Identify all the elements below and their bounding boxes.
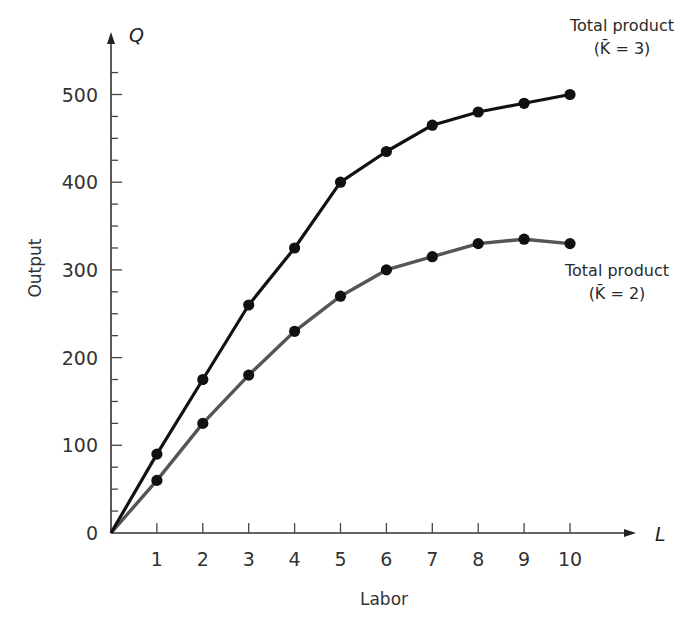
- series-k3: [111, 89, 576, 533]
- curve-label-k2-line2: (K̄ = 2): [589, 284, 646, 303]
- data-point-marker: [151, 475, 162, 486]
- y-tick-label: 500: [62, 84, 98, 106]
- x-axis-symbol: L: [655, 523, 666, 545]
- curve-label-k3-line1: Total product: [569, 16, 674, 35]
- data-point-marker: [564, 89, 575, 100]
- curve-line: [111, 95, 570, 534]
- y-tick-label: 400: [62, 171, 98, 193]
- data-point-marker: [335, 177, 346, 188]
- x-tick-label: 6: [380, 548, 392, 570]
- data-point-marker: [197, 374, 208, 385]
- x-axis-arrow-icon: [624, 529, 636, 537]
- x-tick-label: 9: [518, 548, 530, 570]
- data-point-marker: [473, 238, 484, 249]
- data-point-marker: [519, 234, 530, 245]
- x-tick-label: 8: [472, 548, 484, 570]
- data-point-marker: [381, 264, 392, 275]
- data-point-marker: [151, 449, 162, 460]
- data-point-marker: [289, 326, 300, 337]
- production-chart: 010020030040050012345678910 Q L Labor Ou…: [0, 0, 696, 629]
- x-tick-label: 7: [426, 548, 438, 570]
- y-axis-title: Output: [25, 238, 45, 297]
- curve-label-k2-line1: Total product: [564, 261, 669, 280]
- y-tick-label: 0: [86, 522, 98, 544]
- x-tick-label: 10: [558, 548, 582, 570]
- y-axis-arrow-icon: [107, 32, 115, 44]
- data-point-marker: [564, 238, 575, 249]
- x-tick-label: 4: [289, 548, 301, 570]
- x-tick-label: 1: [151, 548, 163, 570]
- y-tick-label: 100: [62, 434, 98, 456]
- data-point-marker: [519, 98, 530, 109]
- x-tick-label: 5: [334, 548, 346, 570]
- series-k2: [111, 234, 576, 533]
- y-tick-label: 200: [62, 347, 98, 369]
- data-point-marker: [427, 251, 438, 262]
- y-tick-label: 300: [62, 259, 98, 281]
- data-point-marker: [243, 299, 254, 310]
- data-point-marker: [427, 120, 438, 131]
- series-layer: [111, 89, 576, 533]
- x-axis-title: Labor: [360, 589, 408, 609]
- data-point-marker: [289, 242, 300, 253]
- data-point-marker: [243, 370, 254, 381]
- data-point-marker: [473, 106, 484, 117]
- data-point-marker: [381, 146, 392, 157]
- curve-label-k3-line2: (K̄ = 3): [594, 39, 651, 58]
- curve-line: [111, 239, 570, 533]
- x-tick-label: 2: [197, 548, 209, 570]
- x-tick-label: 3: [243, 548, 255, 570]
- data-point-marker: [335, 291, 346, 302]
- y-axis-symbol: Q: [129, 24, 144, 46]
- data-point-marker: [197, 418, 208, 429]
